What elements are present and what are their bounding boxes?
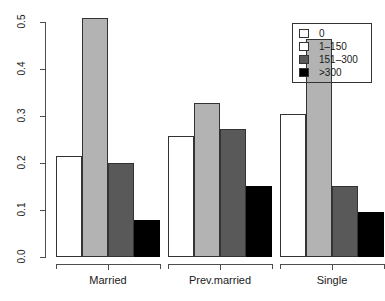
legend-label-1: 1–150 — [319, 40, 347, 53]
x-axis-bracket-end-2-0 — [280, 264, 281, 269]
x-axis-bracket-end-0-0 — [56, 264, 57, 269]
legend-label-3: >300 — [319, 66, 342, 79]
legend-label-2: 151–300 — [319, 53, 358, 66]
x-axis-tick-2 — [332, 264, 333, 270]
y-axis-label-group: 0.5 — [6, 16, 34, 28]
bar-married-0 — [56, 156, 82, 257]
bar-prev-married-1-150 — [194, 103, 220, 257]
bar-married-1-150 — [82, 18, 108, 257]
bar-prev-married--300 — [246, 186, 272, 257]
y-axis-label-0.2: 0.2 — [16, 150, 27, 176]
x-axis-bracket-end-1-0 — [168, 264, 169, 269]
legend: 0 1–150 151–300 >300 — [292, 23, 372, 83]
bar-single-151-300 — [332, 186, 358, 257]
y-axis-label-group: 0.3 — [6, 110, 34, 122]
y-axis-label-group: 0.4 — [6, 63, 34, 75]
legend-swatch-icon-0 — [299, 29, 309, 38]
x-axis-tick-0 — [108, 264, 109, 270]
y-axis-tick-0.4 — [40, 69, 46, 70]
x-axis-label-1: Prev.married — [160, 274, 280, 286]
y-axis-label-0.1: 0.1 — [16, 197, 27, 223]
legend-swatch-icon-1 — [299, 42, 309, 51]
x-axis-bracket-end-1-1 — [272, 264, 273, 269]
bar-single-0 — [280, 114, 306, 257]
bar-married-151-300 — [108, 163, 134, 257]
y-axis-label-group: 0.2 — [6, 157, 34, 169]
bar-prev-married-151-300 — [220, 129, 246, 257]
y-axis-label-0.3: 0.3 — [16, 103, 27, 129]
bar-prev-married-0 — [168, 136, 194, 257]
y-axis-line — [45, 22, 46, 257]
y-axis-tick-0.3 — [40, 116, 46, 117]
y-axis-label-0.5: 0.5 — [16, 9, 27, 35]
y-axis-label-group: 0.1 — [6, 204, 34, 216]
x-axis-label-2: Single — [272, 274, 385, 286]
y-axis-label-group: 0.0 — [6, 251, 34, 263]
bar-married--300 — [134, 220, 160, 257]
x-axis-label-0: Married — [48, 274, 168, 286]
legend-label-0: 0 — [319, 27, 325, 40]
y-axis-tick-0.5 — [40, 22, 46, 23]
legend-swatch-icon-2 — [299, 55, 309, 64]
y-axis-label-0.4: 0.4 — [16, 56, 27, 82]
y-axis-tick-0.1 — [40, 210, 46, 211]
y-axis-label-0.0: 0.0 — [16, 244, 27, 270]
y-axis-tick-0.0 — [40, 257, 46, 258]
bar-single--300 — [358, 212, 384, 257]
x-axis-tick-1 — [220, 264, 221, 270]
bar-chart: 0.5 0.4 0.3 0.2 0.1 0.0 MarriedPrev.marr… — [0, 0, 385, 301]
y-axis-tick-0.2 — [40, 163, 46, 164]
legend-swatch-icon-3 — [299, 68, 309, 77]
x-axis-bracket-end-0-1 — [160, 264, 161, 269]
